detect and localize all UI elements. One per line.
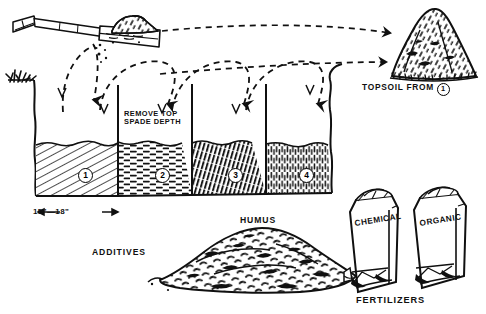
trench-section-number-3: 3 (228, 168, 243, 183)
remove-top-spade-depth-label: REMOVE TOP SPADE DEPTH (124, 110, 181, 127)
diagram-canvas (0, 0, 486, 314)
additives-label: ADDITIVES (92, 248, 146, 258)
curved-dashed-arrow-1-icon (63, 44, 98, 112)
topsoil-from-text: TOPSOIL FROM (362, 82, 434, 92)
long-dashed-arrow-icon (162, 25, 390, 33)
trench-section-4 (266, 143, 332, 194)
trench-width-label: 15"—18" (33, 208, 69, 217)
curved-dashed-arrow-2-icon (100, 61, 175, 110)
spade-icon (13, 16, 160, 47)
trench-section-number-2: 2 (155, 168, 170, 183)
trench-section-number-1: 1 (78, 168, 93, 183)
topsoil-from-label: TOPSOIL FROM 1 (362, 83, 450, 96)
humus-label: HUMUS (240, 216, 276, 226)
trench-left-wall (34, 80, 36, 196)
topsoil-mound (390, 9, 478, 81)
trench-section-3 (192, 141, 266, 195)
fertilizers-label: FERTILIZERS (356, 295, 425, 305)
trench-right-wall (330, 64, 342, 193)
fertilizer-bag-chemical (350, 189, 398, 292)
curved-dashed-arrow-4-icon (246, 61, 323, 110)
soil-trench-diagram: REMOVE TOP SPADE DEPTH TOPSOIL FROM 1 15… (0, 0, 486, 314)
circled-number-icon: 1 (437, 83, 450, 96)
humus-pile (148, 228, 356, 293)
fertilizer-bag-organic (414, 187, 466, 288)
remove-label-line-2: SPADE DEPTH (124, 118, 181, 126)
trench-section-2 (118, 141, 192, 196)
trench-section-1 (36, 141, 118, 196)
falling-soil-crumbs-icon (94, 44, 107, 63)
trench-section-number-4: 4 (299, 168, 314, 183)
